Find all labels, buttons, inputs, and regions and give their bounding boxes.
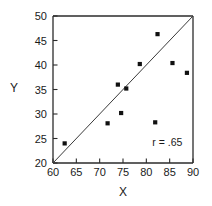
y-tick-label: 50 — [35, 10, 47, 22]
data-point — [116, 83, 120, 87]
x-tick-label: 70 — [94, 166, 106, 178]
x-tick-label: 90 — [187, 166, 199, 178]
data-point — [138, 62, 142, 66]
data-points — [63, 32, 189, 145]
x-tick-label: 85 — [164, 166, 176, 178]
x-tick-label: 60 — [47, 166, 59, 178]
x-tick-label: 80 — [140, 166, 152, 178]
scatter-plot-figure: 2025303540455060657075808590 r = .65 YX — [0, 0, 212, 206]
data-point — [170, 61, 174, 65]
y-tick-label: 35 — [35, 84, 47, 96]
y-tick-label: 30 — [35, 108, 47, 120]
data-point — [185, 71, 189, 75]
x-tick-label: 75 — [117, 166, 129, 178]
y-tick-label: 45 — [35, 35, 47, 47]
data-point — [153, 120, 157, 124]
y-tick-label: 20 — [35, 157, 47, 169]
annotation-label: r = .65 — [152, 136, 182, 148]
x-tick-label: 65 — [70, 166, 82, 178]
x-axis-title: X — [119, 185, 127, 199]
plot-canvas: 2025303540455060657075808590 r = .65 YX — [0, 0, 212, 206]
data-point — [106, 121, 110, 125]
y-axis-title: Y — [10, 81, 18, 95]
y-tick-label: 40 — [35, 59, 47, 71]
data-point — [124, 86, 128, 90]
data-point — [155, 32, 159, 36]
data-point — [63, 141, 67, 145]
axis-titles: YX — [10, 81, 127, 199]
correlation-annotation: r = .65 — [152, 136, 182, 148]
y-tick-label: 25 — [35, 133, 47, 145]
data-point — [119, 111, 123, 115]
